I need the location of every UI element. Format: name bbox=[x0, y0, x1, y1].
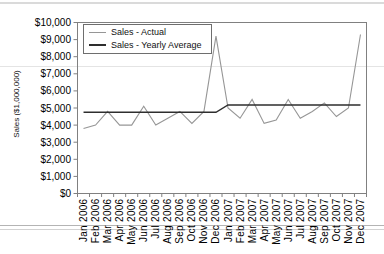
y-tick-label: $7,000 bbox=[40, 68, 71, 79]
x-axis-label: Oct 2007 bbox=[331, 198, 342, 241]
legend-label-average: Sales - Yearly Average bbox=[111, 41, 201, 50]
legend-line-swatch-average bbox=[89, 44, 106, 46]
x-axis-label: Mar 2007 bbox=[247, 198, 258, 243]
x-axis-label: Feb 2006 bbox=[90, 198, 101, 243]
x-axis-label: Apr 2007 bbox=[259, 198, 270, 241]
legend-item-average: Sales - Yearly Average bbox=[89, 41, 211, 50]
x-axis-label: Jul 2007 bbox=[295, 198, 306, 238]
y-tick-label: $4,000 bbox=[40, 120, 71, 131]
x-axis-label: Dec 2006 bbox=[210, 198, 221, 243]
x-axis-label: Mar 2006 bbox=[102, 198, 113, 243]
y-tick-label: $2,000 bbox=[40, 154, 71, 165]
report-page: $0$1,000$2,000$3,000$4,000$5,000$6,000$7… bbox=[0, 0, 384, 254]
legend-line-swatch-actual bbox=[89, 32, 106, 33]
x-axis-label: Sep 2007 bbox=[319, 198, 330, 243]
y-tick-label: $9,000 bbox=[40, 34, 71, 45]
x-axis-label: Jul 2006 bbox=[150, 198, 161, 238]
sales-line-chart: $0$1,000$2,000$3,000$4,000$5,000$6,000$7… bbox=[0, 0, 384, 254]
y-tick-label: $10,000 bbox=[35, 17, 72, 28]
y-tick-label: $5,000 bbox=[40, 103, 71, 114]
x-axis-label: Nov 2007 bbox=[343, 198, 354, 243]
x-axis-label: May 2006 bbox=[126, 198, 137, 244]
x-axis-label: Sep 2006 bbox=[174, 198, 185, 243]
x-axis-label: Apr 2006 bbox=[114, 198, 125, 241]
x-axis-label: Feb 2007 bbox=[235, 198, 246, 243]
x-axis-label: Nov 2006 bbox=[198, 198, 209, 243]
x-axis-label: Dec 2007 bbox=[355, 198, 366, 243]
legend-label-actual: Sales - Actual bbox=[111, 28, 166, 37]
y-tick-label: $0 bbox=[60, 188, 72, 199]
y-axis-title: Sales ($1,000,000) bbox=[12, 44, 22, 164]
x-axis-label: Aug 2007 bbox=[307, 198, 318, 243]
y-tick-label: $3,000 bbox=[40, 137, 71, 148]
x-axis-label: Jun 2006 bbox=[138, 198, 149, 242]
legend: Sales - Actual Sales - Yearly Average bbox=[83, 24, 212, 54]
y-tick-label: $6,000 bbox=[40, 85, 71, 96]
x-axis-label: Aug 2006 bbox=[162, 198, 173, 243]
x-axis-label: May 2007 bbox=[271, 198, 282, 244]
x-axis-label: Oct 2006 bbox=[186, 198, 197, 241]
x-axis-label: Jan 2006 bbox=[78, 198, 89, 242]
legend-item-actual: Sales - Actual bbox=[89, 28, 211, 37]
y-tick-label: $1,000 bbox=[40, 171, 71, 182]
y-tick-label: $8,000 bbox=[40, 51, 71, 62]
x-axis-label: Jan 2007 bbox=[223, 198, 234, 242]
x-axis-label: Jun 2007 bbox=[283, 198, 294, 242]
